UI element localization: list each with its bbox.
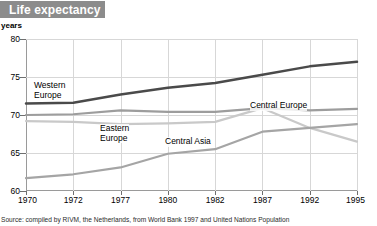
- y-axis-tick-label: 75: [1, 72, 20, 82]
- series-line-central-asia: [26, 124, 357, 178]
- series-label-central-asia: Central Asia: [165, 137, 211, 147]
- series-lines-group: [26, 39, 357, 191]
- page-title: Life expectancy: [0, 3, 101, 17]
- y-axis-tick-label: 65: [1, 148, 20, 158]
- series-label-line: Europe: [34, 91, 66, 101]
- series-label-line: Europe: [100, 134, 129, 144]
- y-axis-unit-label: years: [1, 21, 22, 30]
- y-axis-tick-label: 80: [1, 34, 20, 44]
- x-axis-tick-label: 1980: [158, 195, 177, 205]
- y-axis-tick-label: 70: [1, 110, 20, 120]
- x-axis-tick-label: 1970: [18, 195, 37, 205]
- series-label-line: Central Asia: [165, 137, 211, 147]
- x-axis-tick-label: 1977: [111, 195, 130, 205]
- x-axis-tick-label: 1992: [300, 195, 319, 205]
- series-label-western-europe: WesternEurope: [34, 81, 66, 100]
- x-axis-tick-label: 1972: [64, 195, 83, 205]
- chart-title-banner: Life expectancy: [0, 1, 105, 18]
- series-label-line: Central Europe: [250, 101, 307, 111]
- series-line-western-europe: [26, 62, 357, 104]
- x-axis-tick-label: 1982: [206, 195, 225, 205]
- series-label-eastern-europe: EasternEurope: [100, 124, 129, 143]
- series-line-central-europe: [26, 108, 357, 115]
- series-label-central-europe: Central Europe: [250, 101, 307, 111]
- source-note: Source: compiled by RIVM, the Netherland…: [1, 216, 289, 223]
- x-axis-tick-label: 1995: [346, 195, 365, 205]
- x-axis-tick-label: 1987: [253, 195, 272, 205]
- chart-plot-area: 6065707580 19701972197719801982198719921…: [26, 39, 357, 191]
